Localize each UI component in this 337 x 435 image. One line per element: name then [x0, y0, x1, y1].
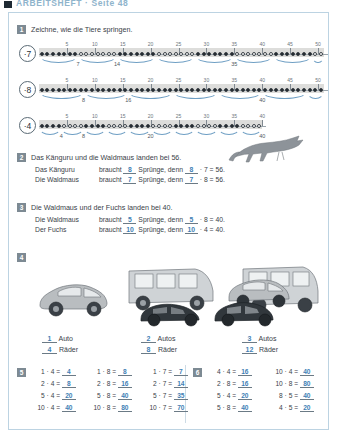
task-6-answer[interactable]: 40 — [300, 392, 314, 400]
task-5-answer[interactable]: 8 — [118, 368, 132, 376]
task-6-expression: 8 · 5 = — [267, 392, 298, 399]
task-5-row[interactable]: 10 · 4 = 40 — [29, 404, 76, 412]
jump-arc[interactable] — [218, 128, 240, 135]
task-2-answer-2a[interactable]: 7 — [123, 176, 136, 184]
task-6-answer[interactable]: 40 — [300, 368, 314, 376]
task-5-row[interactable]: 5 · 7 = 35 — [141, 392, 188, 400]
task-6-expression: 5 · 4 = — [205, 392, 236, 399]
jump-arc[interactable] — [84, 92, 129, 99]
car-count-1[interactable]: 1 — [42, 335, 57, 343]
task-5-answer[interactable]: 80 — [118, 404, 132, 412]
car-count-2[interactable]: 2 — [141, 335, 156, 343]
number-line-tick-label: 25 — [176, 41, 182, 47]
task-5-row[interactable]: 2 · 8 = 16 — [85, 380, 132, 388]
car-caption-3-wheels[interactable]: 12 Räder — [242, 346, 278, 354]
task-5-row[interactable]: 5 · 4 = 20 — [29, 392, 76, 400]
page-header: ARBEITSHEFT · Seite 48 — [0, 0, 337, 11]
task-5-answer[interactable]: 20 — [62, 392, 76, 400]
car-count-3[interactable]: 3 — [242, 335, 257, 343]
task-3-row-1[interactable]: Die Waldmaus braucht 5 Sprünge, denn 5 ·… — [35, 216, 225, 224]
wheel-count-1[interactable]: 4 — [42, 346, 57, 354]
task-3-title: Die Waldmaus und der Fuchs landen bei 40… — [31, 203, 173, 212]
jump-arc[interactable] — [39, 56, 78, 63]
task-5-answer[interactable]: 16 — [118, 380, 132, 388]
jump-arc[interactable] — [151, 128, 173, 135]
jump-arc[interactable] — [39, 92, 84, 99]
number-line-tick-label: 5 — [66, 77, 69, 83]
task-5-answer[interactable]: 4 — [62, 368, 76, 376]
task-3-answer-1b[interactable]: 5 — [185, 216, 198, 224]
task-6-answer[interactable]: 16 — [238, 368, 252, 376]
jump-arc[interactable] — [78, 56, 117, 63]
jump-arc[interactable] — [195, 56, 234, 63]
task-5-answer[interactable]: 14 — [174, 380, 188, 388]
jump-arc[interactable] — [273, 56, 312, 63]
task-6-answer[interactable]: 40 — [238, 404, 252, 412]
task-6-row[interactable]: 5 · 8 = 40 — [205, 404, 252, 412]
jump-arc[interactable] — [218, 92, 263, 99]
task-6-answer[interactable]: 80 — [300, 380, 314, 388]
task-2-answer-2b[interactable]: 7 — [185, 176, 198, 184]
jump-arc[interactable] — [84, 128, 106, 135]
task-5-answer[interactable]: 70 — [174, 404, 188, 412]
jump-arc[interactable] — [173, 128, 195, 135]
jump-arc[interactable] — [39, 128, 61, 135]
task-2-answer-1a[interactable]: 8 — [123, 166, 136, 174]
task-6-answer[interactable]: 20 — [238, 392, 252, 400]
task-6-row[interactable]: 8 · 5 = 40 — [267, 392, 314, 400]
task-5-badge: 5 — [17, 368, 26, 377]
task-4-badge: 4 — [17, 253, 26, 262]
jump-arc[interactable] — [307, 92, 324, 99]
jump-arc[interactable] — [234, 56, 273, 63]
task-5-answer[interactable]: 40 — [62, 404, 76, 412]
task-5-row[interactable]: 1 · 7 = 7 — [141, 368, 188, 376]
number-line-tick-label: 30 — [204, 113, 210, 119]
task-2-row-1[interactable]: Das Känguru braucht 8 Sprünge, denn 8 · … — [35, 166, 225, 174]
car-caption-3-count[interactable]: 3 Autos — [242, 335, 276, 343]
task-2-answer-1b[interactable]: 8 — [185, 166, 198, 174]
task-5-row[interactable]: 2 · 4 = 8 — [29, 380, 76, 388]
task-6-answer[interactable]: 20 — [300, 404, 314, 412]
wheel-count-3[interactable]: 12 — [242, 346, 257, 354]
jump-arc[interactable] — [128, 92, 173, 99]
task-5-answer[interactable]: 8 — [62, 380, 76, 388]
task-3-answer-2b[interactable]: 10 — [185, 226, 198, 234]
task-5-answer[interactable]: 40 — [118, 392, 132, 400]
task-2-mid-1: Sprünge, denn — [138, 166, 183, 173]
number-line-7[interactable]: ·7 510152025303540455071435 — [19, 35, 324, 71]
jump-arc[interactable] — [312, 56, 323, 63]
car-caption-2-count[interactable]: 2 Autos — [141, 335, 175, 343]
car-caption-1-count[interactable]: 1 Auto — [42, 335, 73, 343]
jump-arc[interactable] — [173, 92, 218, 99]
car-caption-1-wheels[interactable]: 4 Räder — [42, 346, 78, 354]
task-6-answer[interactable]: 16 — [238, 380, 252, 388]
task-6-row[interactable]: 4 · 4 = 16 — [205, 368, 252, 376]
task-5-row[interactable]: 10 · 7 = 70 — [141, 404, 188, 412]
jump-arc[interactable] — [195, 128, 217, 135]
task-5-answer[interactable]: 7 — [174, 368, 188, 376]
number-line-8[interactable]: ·8 510152025303540455081640 — [19, 71, 324, 107]
task-5-row[interactable]: 1 · 8 = 8 — [85, 368, 132, 376]
task-6-row[interactable]: 4 · 5 = 20 — [267, 404, 314, 412]
task-6-row[interactable]: 2 · 8 = 16 — [205, 380, 252, 388]
task-6-row[interactable]: 5 · 4 = 20 — [205, 392, 252, 400]
car-caption-2-wheels[interactable]: 8 Räder — [141, 346, 177, 354]
task-3-row-2[interactable]: Der Fuchs braucht 10 Sprünge, denn 10 · … — [35, 226, 225, 234]
jump-arc[interactable] — [262, 92, 307, 99]
task-5-answer[interactable]: 35 — [174, 392, 188, 400]
task-6-expression: 5 · 8 = — [205, 404, 236, 411]
task-5-row[interactable]: 5 · 8 = 40 — [85, 392, 132, 400]
task-5-row[interactable]: 2 · 7 = 14 — [141, 380, 188, 388]
task-3-answer-2a[interactable]: 10 — [123, 226, 136, 234]
task-6-row[interactable]: 10 · 4 = 40 — [267, 368, 314, 376]
wheel-count-2[interactable]: 8 — [141, 346, 156, 354]
task-6-row[interactable]: 10 · 8 = 80 — [267, 380, 314, 388]
jump-arc[interactable] — [156, 56, 195, 63]
jump-arc[interactable] — [61, 128, 83, 135]
task-3-answer-1a[interactable]: 5 — [123, 216, 136, 224]
jump-arc[interactable] — [117, 56, 156, 63]
task-5-row[interactable]: 10 · 8 = 80 — [85, 404, 132, 412]
jump-arc[interactable] — [106, 128, 128, 135]
task-5-row[interactable]: 1 · 4 = 4 — [29, 368, 76, 376]
task-2-row-2[interactable]: Die Waldmaus braucht 7 Sprünge, denn 7 ·… — [35, 176, 225, 184]
